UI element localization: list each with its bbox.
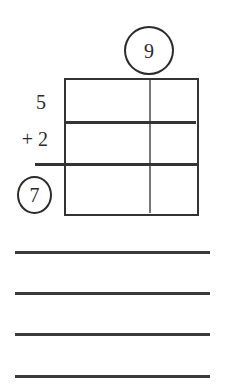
result-circle: 7	[17, 176, 52, 214]
top-circle: 9	[124, 26, 174, 75]
addend-top: 5	[22, 92, 46, 112]
answer-line-2	[15, 292, 210, 295]
top-circle-number: 9	[144, 41, 154, 61]
grid-column-divider	[149, 80, 151, 213]
answer-line-4	[15, 375, 210, 378]
grid-row-divider-1	[66, 121, 196, 124]
sum-line	[35, 163, 199, 166]
place-value-grid	[64, 78, 199, 216]
answer-line-3	[15, 333, 210, 336]
answer-line-1	[15, 251, 210, 254]
result-circle-number: 7	[30, 185, 40, 205]
addend-bottom: + 2	[12, 129, 48, 149]
